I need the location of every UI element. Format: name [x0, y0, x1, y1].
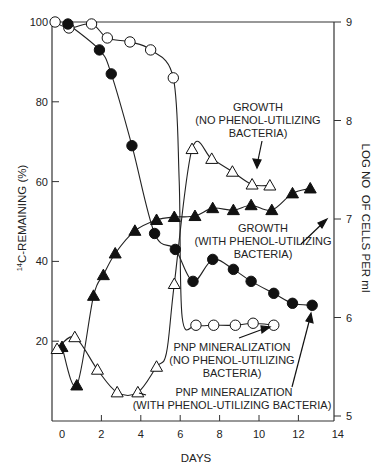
filled-circle-marker: [170, 244, 180, 254]
x-tick-label: 2: [98, 428, 104, 440]
svg-text:(NO PHENOL-UTILIZING: (NO PHENOL-UTILIZING: [169, 354, 294, 366]
open-circle-marker: [86, 19, 96, 29]
filled-triangle-marker: [109, 247, 121, 258]
series-curve: [55, 22, 274, 330]
filled-triangle-marker: [88, 290, 100, 301]
filled-circle-marker: [246, 276, 256, 286]
y2-tick-label: 9: [346, 16, 352, 28]
filled-circle-marker: [307, 300, 317, 310]
x-axis-label: DAYS: [181, 452, 212, 464]
y-tick-label: 80: [36, 96, 48, 108]
plot-area: 024681012142040608010056789 DAYS 14C-REM…: [0, 0, 384, 473]
x-tick-label: 8: [217, 428, 223, 440]
open-circle-marker: [125, 37, 135, 47]
filled-triangle-marker: [266, 204, 278, 215]
open-triangle-marker: [91, 364, 103, 375]
x-tick-label: 0: [59, 428, 65, 440]
open-circle-marker: [248, 318, 258, 328]
open-triangle-marker: [186, 143, 198, 154]
open-triangle-marker: [226, 166, 238, 177]
filled-circle-marker: [63, 19, 73, 29]
open-circle-marker: [208, 320, 218, 330]
series-curve: [68, 24, 312, 305]
open-circle-marker: [168, 73, 178, 83]
svg-text:(WITH PHENOL-UTILIZING BACTERI: (WITH PHENOL-UTILIZING BACTERIA): [133, 399, 332, 411]
filled-circle-marker: [269, 288, 279, 298]
y2-axis-label: LOG NO OF CELLS PER ml: [360, 144, 372, 293]
annotation-pnp-with: PNP MINERALIZATION (WITH PHENOL-UTILIZIN…: [133, 386, 332, 411]
y2-tick-label: 8: [346, 115, 352, 127]
filled-triangle-marker: [245, 199, 257, 210]
svg-text:(WITH PHENOL-UTILIZING: (WITH PHENOL-UTILIZING: [195, 235, 332, 247]
svg-text:BACTERIA): BACTERIA): [229, 127, 288, 139]
filled-circle-marker: [208, 254, 218, 264]
svg-text:PNP MINERALIZATION: PNP MINERALIZATION: [174, 341, 291, 353]
y-tick-label: 40: [36, 255, 48, 267]
open-circle-marker: [269, 320, 279, 330]
x-tick-label: 4: [138, 428, 144, 440]
filled-triangle-marker: [189, 210, 201, 221]
open-triangle-marker: [111, 386, 123, 397]
open-triangle-marker: [246, 179, 258, 190]
open-circle-marker: [230, 320, 240, 330]
y2-tick-label: 5: [346, 410, 352, 422]
filled-circle-marker: [127, 140, 137, 150]
open-circle-marker: [145, 45, 155, 55]
filled-circle-marker: [287, 298, 297, 308]
annotation-pnp-no: PNP MINERALIZATION (NO PHENOL-UTILIZING …: [169, 341, 294, 379]
filled-circle-marker: [94, 45, 104, 55]
open-triangle-marker: [168, 278, 180, 289]
filled-triangle-marker: [129, 225, 141, 236]
y2-tick-label: 6: [346, 312, 352, 324]
open-circle-marker: [191, 320, 201, 330]
svg-text:PNP MINERALIZATION: PNP MINERALIZATION: [176, 386, 293, 398]
x-tick-label: 6: [177, 428, 183, 440]
svg-text:LOG NO OF CELLS PER ml: LOG NO OF CELLS PER ml: [360, 144, 372, 293]
y-axis-label: 14C-REMAINING (%): [15, 164, 28, 271]
svg-text:GROWTH: GROWTH: [238, 222, 288, 234]
filled-circle-marker: [106, 69, 116, 79]
open-circle-marker: [102, 33, 112, 43]
open-triangle-marker: [264, 180, 276, 191]
svg-text:(NO PHENOL-UTILIZING: (NO PHENOL-UTILIZING: [195, 114, 320, 126]
filled-triangle-marker: [207, 202, 219, 213]
chart: 024681012142040608010056789 DAYS 14C-REM…: [0, 0, 384, 473]
y-tick-label: 20: [36, 335, 48, 347]
y2-tick-label: 7: [346, 213, 352, 225]
svg-text:BACTERIA): BACTERIA): [203, 367, 262, 379]
x-tick-label: 12: [292, 428, 304, 440]
axes: 024681012142040608010056789: [30, 16, 352, 440]
svg-text:14C-REMAINING (%): 14C-REMAINING (%): [15, 164, 28, 271]
filled-triangle-marker: [304, 182, 316, 193]
annotation-growth-no: GROWTH (NO PHENOL-UTILIZING BACTERIA): [195, 101, 320, 139]
filled-circle-marker: [188, 276, 198, 286]
open-circle-marker: [50, 17, 60, 27]
open-triangle-marker: [151, 361, 163, 372]
x-tick-label: 10: [253, 428, 265, 440]
svg-text:BACTERIA): BACTERIA): [234, 248, 293, 260]
y-tick-label: 60: [36, 176, 48, 188]
filled-circle-marker: [149, 228, 159, 238]
filled-triangle-marker: [97, 269, 109, 280]
filled-circle-marker: [228, 264, 238, 274]
filled-triangle-marker: [286, 187, 298, 198]
x-tick-label: 14: [332, 428, 344, 440]
y-tick-label: 100: [30, 16, 48, 28]
svg-text:GROWTH: GROWTH: [233, 101, 283, 113]
